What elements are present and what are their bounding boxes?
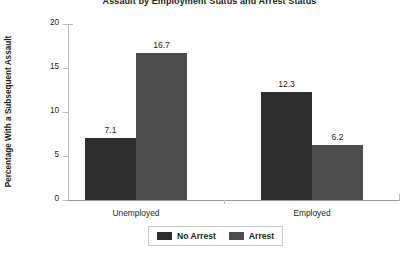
x-category-label-unemployed: Unemployed — [112, 208, 159, 218]
y-tick-label-1: 5 — [54, 150, 59, 159]
y-tick-label-2: 10 — [50, 106, 59, 115]
y-tick-2: 10 — [63, 112, 68, 113]
x-category-label-employed: Employed — [293, 208, 330, 218]
bar-value-employed-no-arrest: 12.3 — [278, 79, 295, 89]
bar-employed-no-arrest: 12.3 — [261, 92, 312, 200]
bar-value-employed-arrest: 6.2 — [332, 132, 344, 142]
bar-unemployed-no-arrest: 7.1 — [85, 138, 136, 201]
bar-value-unemployed-arrest: 16.7 — [153, 40, 170, 50]
legend-label-arrest: Arrest — [249, 231, 274, 241]
legend-label-no-arrest: No Arrest — [177, 231, 216, 241]
y-tick-label-0: 0 — [54, 194, 59, 203]
legend-item-no-arrest: No Arrest — [157, 231, 216, 241]
y-tick-3: 15 — [63, 68, 68, 69]
chart-legend: No Arrest Arrest — [148, 226, 283, 246]
chart-title: Assault by Employment Status and Arrest … — [0, 0, 419, 7]
legend-item-arrest: Arrest — [229, 231, 274, 241]
y-tick-1: 5 — [63, 156, 68, 157]
y-tick-0: 0 — [63, 200, 68, 201]
x-axis-line — [68, 200, 400, 201]
y-axis-line — [68, 24, 69, 200]
bar-value-unemployed-no-arrest: 7.1 — [105, 125, 117, 135]
legend-swatch-arrest — [229, 232, 244, 240]
y-tick-label-3: 15 — [50, 62, 59, 71]
legend-swatch-no-arrest — [157, 232, 172, 240]
y-axis-title: Percentage With a Subsequent Assault — [2, 20, 16, 202]
bar-unemployed-arrest: 16.7 — [136, 53, 187, 200]
x-tick-divider — [224, 200, 225, 204]
bar-chart: Assault by Employment Status and Arrest … — [0, 0, 419, 254]
y-axis-title-text: Percentage With a Subsequent Assault — [5, 35, 14, 187]
bar-employed-arrest: 6.2 — [312, 145, 363, 200]
y-axis-top-cap — [68, 24, 73, 25]
y-tick-label-4: 20 — [50, 18, 59, 27]
x-axis-end-cap — [399, 194, 400, 201]
plot-area: 0 5 10 15 20 7.1 16.7 12.3 6.2 Une — [68, 24, 400, 200]
y-tick-4: 20 — [63, 24, 68, 25]
